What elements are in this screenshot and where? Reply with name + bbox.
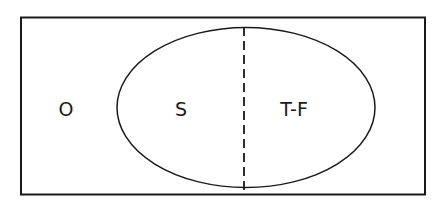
set-ellipse — [117, 28, 375, 188]
universe-rectangle — [21, 18, 425, 195]
region-label-s: S — [175, 98, 187, 120]
universe-label: O — [59, 98, 74, 120]
region-label-t-f: T-F — [279, 98, 308, 120]
venn-diagram: O S T-F — [0, 0, 442, 206]
